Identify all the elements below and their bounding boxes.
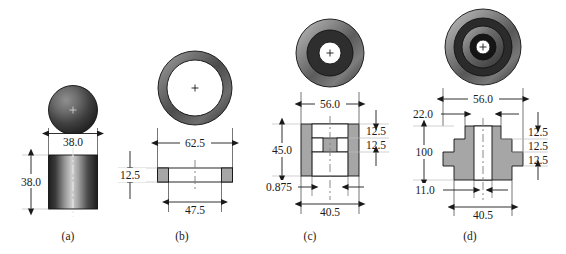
- part-d-dim-outer-label: 56.0: [473, 93, 493, 105]
- part-c-dim-step1-label: 12.5: [366, 125, 386, 137]
- part-d-dim-step3-label: 12.5: [528, 154, 548, 166]
- part-a-caption: (a): [62, 230, 75, 243]
- part-b-dim-thickness-label: 12.5: [120, 169, 140, 181]
- part-d-caption: (d): [463, 230, 477, 243]
- part-c-dim-step2-label: 12.5: [366, 139, 386, 151]
- part-c-web-gap-left: [312, 138, 323, 152]
- part-a-dim-diameter-label: 38.0: [63, 136, 83, 148]
- engineering-drawing-figure: 38.0 38.0 (a) 62.5 47.5: [0, 0, 566, 254]
- part-b-dim-outer-label: 62.5: [185, 137, 205, 149]
- part-b-plate-section-left: [158, 168, 169, 182]
- part-b-plate-section-right: [222, 168, 233, 182]
- part-d-dim-offset-label: 11.0: [415, 184, 435, 196]
- part-c-dim-outer-label: 56.0: [320, 98, 340, 110]
- part-c-dim-bore-label: 40.5: [320, 206, 340, 218]
- part-c-dim-wall-label: 0.875: [266, 181, 292, 193]
- part-a-dim-height-label: 38.0: [21, 176, 41, 188]
- part-d-dim-step2-label: 12.5: [528, 140, 548, 152]
- part-c-dim-height-label: 45.0: [272, 144, 292, 156]
- part-d-dim-height-label: 100: [415, 146, 433, 158]
- part-b-caption: (b): [175, 230, 189, 243]
- part-d-dim-bore-label: 40.5: [473, 209, 493, 221]
- part-c-caption: (c): [304, 230, 317, 243]
- part-d-dim-topstep-label: 22.0: [413, 108, 433, 120]
- part-d-dim-step1-label: 12.5: [528, 126, 548, 138]
- part-b-dim-inner-label: 47.5: [185, 204, 205, 216]
- part-c-web-gap-right: [337, 138, 348, 152]
- drawing-canvas: 38.0 38.0 (a) 62.5 47.5: [0, 0, 566, 254]
